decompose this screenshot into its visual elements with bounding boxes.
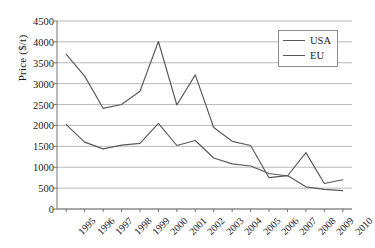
legend-label: EU	[310, 50, 324, 61]
legend-line-swatch	[283, 55, 305, 56]
legend-item-eu: EU	[283, 48, 331, 63]
legend-line-swatch	[283, 40, 305, 41]
series-line-usa	[66, 123, 343, 183]
legend: USAEU	[278, 30, 338, 67]
legend-item-usa: USA	[283, 33, 331, 48]
legend-label: USA	[310, 35, 331, 46]
